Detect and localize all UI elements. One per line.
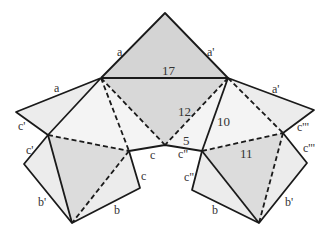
label-right-c-triple-lower: c''' [303,141,315,155]
label-5: 5 [183,133,190,148]
label-right-a-prime: a' [272,82,280,96]
label-left-c: c [141,169,146,183]
net-diagram: 17 12 10 5 11 a a' a a' c' c' c''' c''' … [0,0,331,237]
label-12: 12 [178,104,191,119]
label-17: 17 [162,63,176,78]
label-left-c-prime-lower: c' [26,143,34,157]
label-center-c-double: c" [178,147,188,161]
label-right-b-prime: b' [285,195,293,209]
label-left-b: b [114,203,120,217]
label-top-a: a [117,45,123,59]
label-11: 11 [240,146,253,161]
label-left-b-prime: b' [38,195,46,209]
label-right-b: b [212,203,218,217]
label-top-a-prime: a' [207,45,215,59]
label-left-c-prime-upper: c' [18,119,26,133]
label-right-c-triple-upper: c''' [297,120,309,134]
label-center-c: c [150,148,155,162]
label-left-a: a [54,81,60,95]
label-10: 10 [217,114,230,129]
label-right-c-double: c" [184,170,194,184]
